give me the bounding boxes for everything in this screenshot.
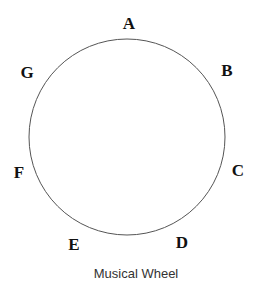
note-label-f: F <box>14 163 24 182</box>
note-label-a: A <box>123 14 136 33</box>
note-label-g: G <box>20 63 33 82</box>
note-label-d: D <box>176 233 188 252</box>
note-label-c: C <box>232 161 244 180</box>
diagram-caption: Musical Wheel <box>94 266 179 281</box>
musical-wheel-diagram: A B C D E F G Musical Wheel <box>0 0 256 287</box>
note-label-e: E <box>68 235 79 254</box>
note-label-b: B <box>221 61 232 80</box>
wheel-circle <box>29 39 225 235</box>
